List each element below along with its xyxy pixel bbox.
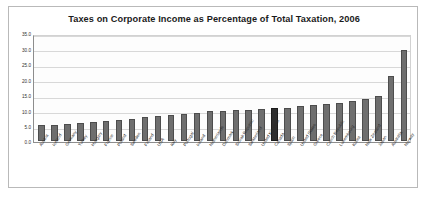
- y-axis-tick-label: 30.0: [9, 48, 31, 53]
- chart-frame: Taxes on Corporate Income as Percentage …: [8, 6, 418, 188]
- x-axis-tick-label: Finland: [141, 144, 148, 188]
- x-axis-tick-label: United Kingdom: [258, 144, 265, 188]
- x-axis-tick-label: France: [101, 144, 108, 188]
- x-axis-tick-label: Austria: [36, 144, 43, 188]
- x-axis-tick-label: Greece: [310, 144, 317, 188]
- bar[interactable]: [362, 99, 369, 141]
- x-axis-tick-label: Germany: [62, 144, 69, 188]
- x-axis-tick-label: Czech Republic: [323, 144, 330, 188]
- y-axis-tick-label: 10.0: [9, 110, 31, 115]
- x-axis-tick-label: Italy: [167, 144, 174, 188]
- bar[interactable]: [401, 50, 408, 141]
- y-axis-tick-label: 15.0: [9, 94, 31, 99]
- bar-series: [35, 35, 411, 141]
- y-axis-tick-label: 20.0: [9, 79, 31, 84]
- x-axis-tick-label: Slovak Republic: [232, 144, 239, 188]
- x-axis-tick-label: Norway: [401, 144, 408, 188]
- x-axis-tick-label: Switzerland: [245, 144, 252, 188]
- x-axis-tick-labels: AustriaIcelandGermanyTurkeyHungaryFrance…: [33, 144, 411, 188]
- x-axis-tick-label: Korea: [349, 144, 356, 188]
- x-axis-tick-label: Poland: [114, 144, 121, 188]
- bar[interactable]: [388, 76, 395, 141]
- chart-title: Taxes on Corporate Income as Percentage …: [9, 14, 419, 24]
- x-axis-tick-label: Luxembourg: [336, 144, 343, 188]
- x-axis-tick-label: Denmark: [219, 144, 226, 188]
- x-axis-tick-label: Iceland: [49, 144, 56, 188]
- x-axis-tick-label: Turkey: [75, 144, 82, 188]
- x-axis-tick-label-text: Italy: [170, 138, 178, 147]
- x-axis-tick-label: Ireland: [193, 144, 200, 188]
- x-axis-tick-label: Australia: [388, 144, 395, 188]
- x-axis-tick-label: Spain: [284, 144, 291, 188]
- x-axis-tick-label: Netherlands: [206, 144, 213, 188]
- y-axis-tick-label: 25.0: [9, 63, 31, 68]
- x-axis-tick-label: Canada: [271, 144, 278, 188]
- x-axis-tick-label: Hungary: [88, 144, 95, 188]
- x-axis-tick-label: New Zealand: [362, 144, 369, 188]
- y-axis-tick-label: 35.0: [9, 32, 31, 37]
- x-axis-tick-label: Japan: [375, 144, 382, 188]
- x-axis-tick-label: United States: [297, 144, 304, 188]
- x-axis-tick-label: Sweden: [127, 144, 134, 188]
- bar[interactable]: [297, 106, 304, 141]
- x-axis-tick-label: USA: [154, 144, 161, 188]
- y-axis-tick-label: 5.0: [9, 125, 31, 130]
- y-axis-tick-labels: 35.030.025.020.015.010.05.00.0: [9, 35, 31, 143]
- y-axis-tick-label: 0.0: [9, 140, 31, 145]
- x-axis-tick-label: Portugal: [180, 144, 187, 188]
